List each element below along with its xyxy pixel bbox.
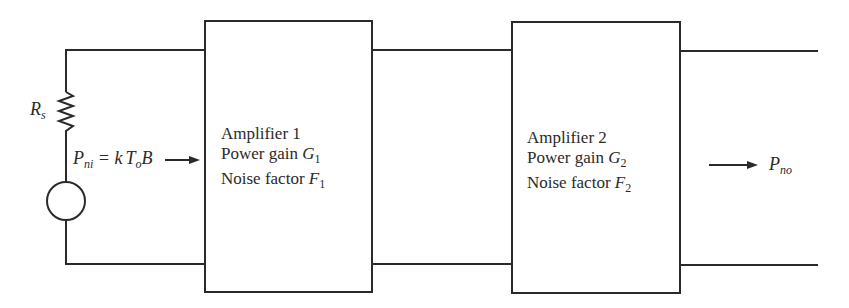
noise-subscript: 2 bbox=[625, 181, 631, 195]
input-arrow-icon bbox=[189, 156, 200, 164]
gain-symbol: G bbox=[608, 148, 620, 167]
noise-label: Noise factor bbox=[527, 173, 615, 192]
output-power-subscript: no bbox=[780, 163, 792, 177]
gain-label: Power gain bbox=[221, 144, 302, 163]
noise-symbol: F bbox=[615, 173, 625, 192]
resistor-symbol: R bbox=[30, 99, 41, 119]
amplifier-1-noise: Noise factor F1 bbox=[221, 169, 325, 194]
diagram-canvas: Rs Pni = kToB Amplifier 1 Power gain G1 … bbox=[0, 0, 849, 308]
amplifier-2-text: Amplifier 2 Power gain G2 Noise factor F… bbox=[527, 128, 631, 198]
amplifier-2-name: Amplifier 2 bbox=[527, 128, 631, 148]
top-input-wire bbox=[66, 50, 205, 92]
amplifier-1-gain: Power gain G1 bbox=[221, 144, 325, 169]
output-power-symbol: P bbox=[769, 154, 780, 174]
resistor-subscript: s bbox=[41, 108, 46, 122]
resistor-icon bbox=[59, 92, 73, 133]
noise-symbol: F bbox=[309, 169, 319, 188]
input-power-label: Pni = kToB bbox=[73, 148, 153, 172]
bottom-input-wire bbox=[66, 220, 205, 264]
resistor-label: Rs bbox=[30, 99, 46, 123]
noise-subscript: 1 bbox=[319, 177, 325, 191]
gain-symbol: G bbox=[302, 144, 314, 163]
gain-subscript: 1 bbox=[315, 152, 321, 166]
noise-source-icon bbox=[47, 182, 85, 220]
input-power-subscript: ni bbox=[84, 157, 93, 171]
output-arrow-icon bbox=[747, 161, 758, 169]
input-power-symbol: P bbox=[73, 148, 84, 168]
bandwidth-symbol: B bbox=[142, 148, 153, 168]
equals-k: = k bbox=[93, 148, 122, 168]
gain-label: Power gain bbox=[527, 148, 608, 167]
amplifier-2-noise: Noise factor F2 bbox=[527, 173, 631, 198]
noise-label: Noise factor bbox=[221, 169, 309, 188]
output-power-label: Pno bbox=[769, 154, 792, 178]
temperature-symbol: T bbox=[125, 148, 135, 168]
amplifier-1-text: Amplifier 1 Power gain G1 Noise factor F… bbox=[221, 124, 325, 194]
amplifier-1-name: Amplifier 1 bbox=[221, 124, 325, 144]
gain-subscript: 2 bbox=[621, 156, 627, 170]
amplifier-2-gain: Power gain G2 bbox=[527, 148, 631, 173]
